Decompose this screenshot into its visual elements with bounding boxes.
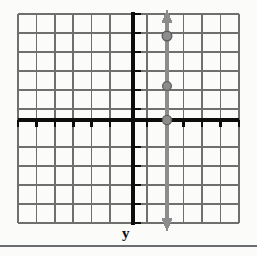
graph-canvas: [0, 0, 257, 256]
data-point-3: [162, 115, 171, 124]
figure-background: [0, 0, 257, 256]
coordinate-grid-svg: [0, 0, 257, 256]
data-point-1: [162, 31, 172, 41]
data-point-2: [163, 82, 172, 91]
y-axis-label: y: [122, 226, 130, 241]
